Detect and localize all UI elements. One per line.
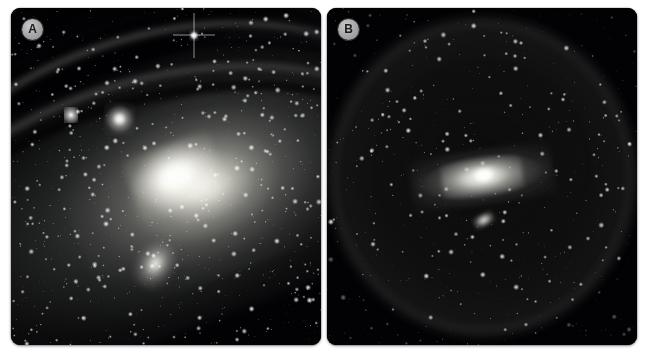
bright-star-with-diffraction-spikes [189, 30, 199, 41]
panel-b-label-badge: B [338, 19, 359, 40]
panel-a-star-field [11, 8, 321, 345]
panel-a-label-badge: A [22, 19, 43, 40]
two-panel-figure: A B [0, 0, 649, 357]
panel-b[interactable]: B [327, 8, 637, 345]
panel-a[interactable]: A [11, 8, 321, 345]
